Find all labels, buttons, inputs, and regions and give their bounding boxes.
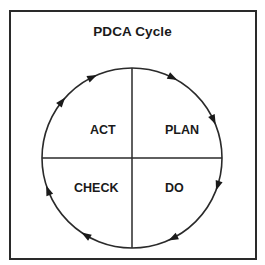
quadrant-label-plan: PLAN	[165, 124, 199, 137]
arrow-head-icon	[208, 114, 219, 126]
quadrant-dividers	[42, 68, 222, 248]
pdca-cycle-diagram	[0, 0, 265, 265]
quadrant-label-do: DO	[165, 182, 184, 195]
arrow-head-icon	[213, 180, 223, 192]
arrow-head-icon	[80, 229, 92, 240]
arrow-head-icon	[43, 184, 53, 196]
arrow-head-icon	[167, 72, 179, 83]
arrow-head-icon	[167, 233, 179, 244]
quadrant-label-check: CHECK	[74, 182, 118, 195]
arrow-head-icon	[86, 72, 98, 83]
quadrant-label-act: ACT	[90, 124, 116, 137]
